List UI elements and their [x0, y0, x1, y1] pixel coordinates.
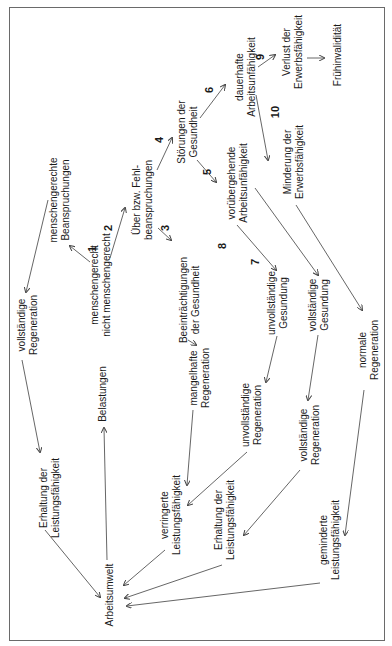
arrow-geminderte-arbeitsumwelt: [127, 583, 320, 606]
node-label: Frühinvalidität: [332, 24, 344, 86]
node-label: beanspruchungen: [143, 160, 155, 240]
node-label: Erhaltung der: [38, 458, 50, 538]
node-label: Regeneration: [200, 348, 212, 408]
node-label: Arbeitsumwelt: [104, 564, 116, 627]
node-label: Arbeitsunfähigkeit: [246, 37, 258, 117]
node-label: vollständige: [298, 405, 310, 465]
node-label: vorübergehende: [226, 143, 238, 223]
node-label: Arbeitsunfähigkeit: [238, 143, 250, 223]
arrow-arbeitsumwelt-belastungen: [104, 428, 107, 560]
node-label: Leistungsfähigkeit: [171, 475, 183, 555]
node-label: Verlust der: [281, 15, 293, 89]
node-label: Minderung der: [282, 125, 294, 199]
node-label: verringerte: [159, 475, 171, 555]
arrow-vollst-gesund-regen: [308, 335, 318, 400]
node-label: geminderte: [318, 500, 330, 580]
node-label: Beeinträchtigungen: [178, 257, 190, 343]
arrow-normale-geminderte: [345, 390, 364, 535]
node-label: Erwerbsfähigkeit: [293, 15, 305, 89]
arrow-beanspr-vollst-regen: [26, 200, 48, 292]
node-label: Gesundung: [278, 271, 290, 335]
node-label: unvollständige: [240, 383, 252, 447]
node-label: unvollständige: [266, 271, 278, 335]
node-label: Regeneration: [28, 295, 40, 355]
node-label: Erwerbsfähigkeit: [294, 125, 306, 199]
node-label: Regeneration: [310, 405, 322, 465]
node-label: vollständige: [307, 279, 319, 332]
node-label: Regeneration: [369, 320, 381, 380]
node-label: vollständige: [16, 295, 28, 355]
node-label: Über bzw. Fehl-: [131, 160, 143, 240]
node-label: nicht menschengerecht: [101, 233, 113, 336]
arrow-vollst-regen-erhaltung-2: [244, 470, 300, 535]
node-label: Gesundheit: [188, 100, 200, 163]
node-label: Belastungen: [97, 366, 109, 422]
arrow-erhaltung-arbeitsumwelt: [45, 530, 100, 597]
arrow-mangelhaft-verringert: [187, 410, 193, 485]
arrow-unvollst-gesund-regen: [266, 336, 277, 382]
node-label: menschengerechte: [48, 157, 60, 242]
arrow-7: [255, 188, 318, 275]
node-label: Beanspruchungen: [60, 157, 72, 242]
node-label: Leistungsfähigkeit: [330, 500, 342, 580]
node-label: dauerhafte: [234, 37, 246, 117]
node-label: Regeneration: [252, 383, 264, 447]
node-label: Störungen der: [176, 100, 188, 163]
node-label: Erhaltung der: [213, 480, 225, 560]
node-label: mangelhafte: [188, 348, 200, 408]
node-label: Leistungsfähigkeit: [50, 458, 62, 538]
node-label: der Gesundheit: [190, 257, 202, 343]
node-label: Leistungsfähigkeit: [225, 480, 237, 560]
arrow-erhaltung2-arbeitsumwelt: [125, 565, 222, 598]
arrow-verringert-arbeitsumwelt: [124, 550, 165, 585]
arrow-vollst-regen-erhaltung: [22, 360, 40, 452]
node-label: Gesundung: [319, 279, 331, 332]
node-label: normale: [357, 320, 369, 380]
